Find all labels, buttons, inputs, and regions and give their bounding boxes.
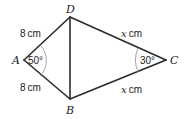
vertex-label-D: D: [65, 3, 75, 16]
vertex-label-B: B: [65, 104, 74, 117]
side-label-DC: xcm: [121, 28, 142, 39]
side-AD-value: 8: [20, 28, 26, 39]
side-DC-unit: cm: [129, 28, 142, 39]
angle-label-A: 50°: [28, 55, 43, 66]
side-label-BC: xcm: [121, 84, 142, 95]
edge-DC: [70, 17, 166, 60]
side-BC-value: x: [121, 84, 127, 95]
angle-arc-C: [135, 48, 138, 72]
vertex-label-C: C: [170, 54, 179, 67]
side-label-AB: 8cm: [20, 82, 41, 93]
angle-label-C: 30°: [140, 55, 155, 66]
side-AB-unit: cm: [28, 82, 41, 93]
side-DC-value: x: [121, 28, 127, 39]
kite-diagram: A D B C 50° 30° 8cm 8cm xcm xcm: [0, 0, 188, 119]
side-label-AD: 8cm: [20, 28, 41, 39]
side-AD-unit: cm: [28, 28, 41, 39]
vertex-label-A: A: [11, 54, 20, 67]
side-BC-unit: cm: [129, 84, 142, 95]
side-AB-value: 8: [20, 82, 26, 93]
